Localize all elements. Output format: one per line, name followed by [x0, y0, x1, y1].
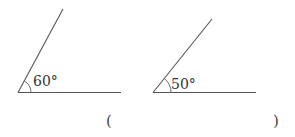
answer-open-paren: (: [106, 112, 112, 130]
angle-right-arc: [164, 78, 171, 92]
angle-left-arc: [25, 81, 32, 92]
angle-diagram: 60° 50° ( ): [0, 0, 295, 137]
angle-left-label: 60°: [33, 73, 58, 89]
angle-right-label: 50°: [171, 76, 196, 92]
answer-blank: ( ): [106, 112, 279, 130]
angle-right: 50°: [153, 19, 256, 93]
answer-close-paren: ): [273, 112, 279, 130]
angle-left: 60°: [18, 9, 121, 93]
